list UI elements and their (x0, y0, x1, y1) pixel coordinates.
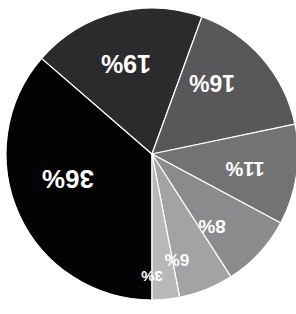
pie-slices-group (6, 8, 296, 300)
pie-chart: 36%19%16%11%8%6%3% (0, 0, 296, 314)
pie-chart-canvas (0, 0, 296, 314)
